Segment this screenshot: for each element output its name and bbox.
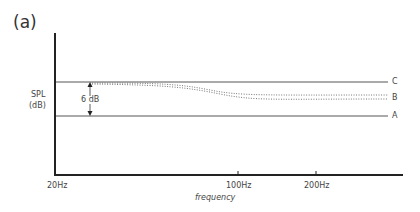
x-tick-20hz: 20Hz xyxy=(47,181,67,190)
annotation-6db: 6 dB xyxy=(81,95,99,104)
curve-b-upper xyxy=(92,83,388,95)
curve-b-lower xyxy=(92,84,388,99)
y-label-line1: SPL xyxy=(31,90,45,99)
x-tick-100hz: 100Hz xyxy=(226,181,251,190)
x-tick-200hz: 200Hz xyxy=(304,181,329,190)
y-label-line2: (dB) xyxy=(29,101,46,110)
curve-label-a: A xyxy=(392,111,397,120)
x-axis-label: frequency xyxy=(195,193,235,202)
arrow-down-icon xyxy=(88,111,93,116)
curve-label-b: B xyxy=(392,93,398,102)
curve-label-c: C xyxy=(392,77,398,86)
arrow-up-icon xyxy=(88,82,93,87)
